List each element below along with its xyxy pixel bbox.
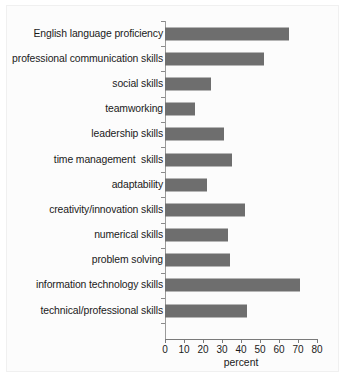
bar-row: technical/professional skills xyxy=(6,298,339,323)
bar-row: English language proficiency xyxy=(6,21,339,46)
category-tick xyxy=(161,223,165,224)
x-axis-tick-label: 0 xyxy=(162,344,168,355)
bar xyxy=(165,203,245,216)
x-axis-tick xyxy=(279,339,280,343)
bar xyxy=(165,153,232,166)
category-tick xyxy=(161,71,165,72)
bar xyxy=(165,128,224,141)
bar-row: information technology skills xyxy=(6,273,339,298)
category-label: time management skills xyxy=(54,154,163,165)
category-label: adaptability xyxy=(112,179,163,190)
category-tick xyxy=(161,46,165,47)
bar-track xyxy=(165,298,339,323)
category-tick xyxy=(161,147,165,148)
x-axis-tick xyxy=(241,339,242,343)
x-axis-tick-label: 10 xyxy=(178,344,189,355)
bar xyxy=(165,52,264,65)
bar-row: social skills xyxy=(6,71,339,96)
category-tick xyxy=(161,122,165,123)
x-axis-tick-label: 70 xyxy=(292,344,303,355)
bar-track xyxy=(165,97,339,122)
bar xyxy=(165,304,247,317)
category-label: teamworking xyxy=(105,103,163,114)
category-tick xyxy=(161,197,165,198)
category-tick xyxy=(161,273,165,274)
category-label: information technology skills xyxy=(36,280,163,291)
x-axis-tick-label: 30 xyxy=(216,344,227,355)
category-tick xyxy=(161,172,165,173)
bar-track xyxy=(165,71,339,96)
bar-track xyxy=(165,122,339,147)
category-label: numerical skills xyxy=(94,229,163,240)
bar-chart-image: English language proficiency professiona… xyxy=(0,0,345,380)
bar-row: time management skills xyxy=(6,147,339,172)
x-axis-tick xyxy=(222,339,223,343)
category-label: technical/professional skills xyxy=(41,305,163,316)
bar-track xyxy=(165,21,339,46)
bar-row: problem solving xyxy=(6,248,339,273)
bar-row: numerical skills xyxy=(6,223,339,248)
bar-track xyxy=(165,172,339,197)
category-label: professional communication skills xyxy=(12,53,163,64)
bar-row: creativity/innovation skills xyxy=(6,197,339,222)
category-tick xyxy=(161,298,165,299)
bar-track xyxy=(165,223,339,248)
x-axis-tick xyxy=(317,339,318,343)
x-axis-tick xyxy=(165,339,166,343)
category-tick xyxy=(161,248,165,249)
bar-track xyxy=(165,147,339,172)
bar xyxy=(165,77,211,90)
x-axis-tick-label: 40 xyxy=(235,344,246,355)
x-axis-tick-label: 60 xyxy=(273,344,284,355)
bar xyxy=(165,279,300,292)
bar-track xyxy=(165,46,339,71)
bar xyxy=(165,27,289,40)
x-axis-title: percent xyxy=(165,357,317,368)
x-axis-tick-label: 50 xyxy=(254,344,265,355)
category-label: English language proficiency xyxy=(34,28,163,39)
bar-track xyxy=(165,248,339,273)
x-axis-tick xyxy=(184,339,185,343)
bar xyxy=(165,103,195,116)
category-tick xyxy=(161,21,165,22)
bar-row: teamworking xyxy=(6,97,339,122)
bar-row: leadership skills xyxy=(6,122,339,147)
bar-track xyxy=(165,197,339,222)
x-axis-tick xyxy=(203,339,204,343)
category-tick xyxy=(161,97,165,98)
x-axis-tick-label: 20 xyxy=(197,344,208,355)
bar-track xyxy=(165,273,339,298)
category-label: leadership skills xyxy=(91,129,163,140)
category-label: social skills xyxy=(112,78,163,89)
bar-row: adaptability xyxy=(6,172,339,197)
bar xyxy=(165,254,230,267)
category-tick xyxy=(161,323,165,324)
x-axis-tick-label: 80 xyxy=(311,344,322,355)
x-axis-tick xyxy=(298,339,299,343)
x-axis-tick xyxy=(260,339,261,343)
category-label: problem solving xyxy=(92,255,163,266)
bar xyxy=(165,178,207,191)
plot-area: English language proficiency professiona… xyxy=(6,5,339,372)
bar xyxy=(165,229,228,242)
bar-row: professional communication skills xyxy=(6,46,339,71)
category-label: creativity/innovation skills xyxy=(49,204,163,215)
bar-rows: English language proficiency professiona… xyxy=(6,21,339,323)
